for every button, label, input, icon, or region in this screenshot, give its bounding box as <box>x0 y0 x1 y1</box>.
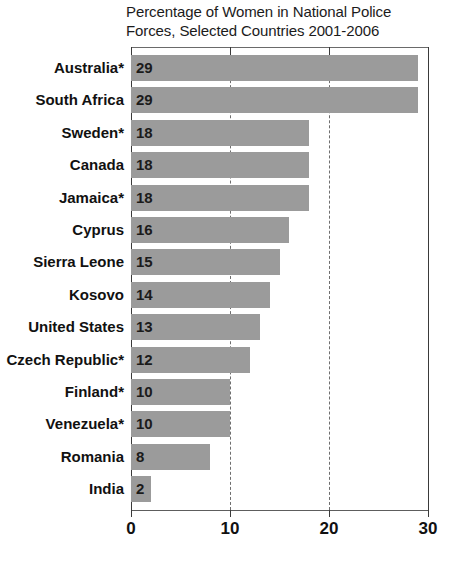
bar-value-label: 14 <box>136 282 153 308</box>
bar-row: 10 <box>131 411 428 437</box>
x-tick-label-30: 30 <box>408 519 448 539</box>
bar <box>131 217 289 243</box>
bar-row: 15 <box>131 249 428 275</box>
category-label: Romania <box>0 444 124 470</box>
category-label: Cyprus <box>0 217 124 243</box>
bar-value-label: 16 <box>136 217 153 243</box>
bar-value-label: 15 <box>136 249 153 275</box>
bar-value-label: 8 <box>136 444 144 470</box>
bar-row: 12 <box>131 347 428 373</box>
bar-value-label: 18 <box>136 152 153 178</box>
bar-row: 13 <box>131 314 428 340</box>
gridline-30 <box>428 55 430 510</box>
bar <box>131 87 418 113</box>
chart-title: Percentage of Women in National Police F… <box>126 2 456 40</box>
x-tick-mark-30 <box>428 510 429 517</box>
bar <box>131 249 280 275</box>
chart-title-line-1: Percentage of Women in National Police <box>126 2 456 21</box>
category-label: Australia* <box>0 55 124 81</box>
category-label: Kosovo <box>0 282 124 308</box>
bar-row: 18 <box>131 185 428 211</box>
category-label: Sweden* <box>0 120 124 146</box>
bar-value-label: 12 <box>136 347 153 373</box>
x-tick-mark-20 <box>329 510 330 517</box>
category-label: Venezuela* <box>0 411 124 437</box>
bar-row: 18 <box>131 120 428 146</box>
bar-row: 8 <box>131 444 428 470</box>
category-label: Finland* <box>0 379 124 405</box>
category-label: United States <box>0 314 124 340</box>
bar <box>131 185 309 211</box>
bar-value-label: 10 <box>136 411 153 437</box>
bar-row: 2 <box>131 476 428 502</box>
top-tick-0 <box>131 47 132 55</box>
top-tick-30 <box>428 47 429 55</box>
category-label: India <box>0 476 124 502</box>
top-tick-20 <box>329 47 330 55</box>
bar <box>131 55 418 81</box>
x-axis-line <box>131 510 428 511</box>
bar-value-label: 29 <box>136 87 153 113</box>
x-tick-mark-10 <box>230 510 231 517</box>
bar <box>131 152 309 178</box>
bar-row: 14 <box>131 282 428 308</box>
plot-area: 29291818181615141312101082 <box>131 55 428 510</box>
bar-row: 10 <box>131 379 428 405</box>
x-tick-label-10: 10 <box>210 519 250 539</box>
bar-row: 18 <box>131 152 428 178</box>
x-tick-label-0: 0 <box>111 519 151 539</box>
category-label: Jamaica* <box>0 185 124 211</box>
category-label: South Africa <box>0 87 124 113</box>
bar-value-label: 2 <box>136 476 144 502</box>
category-label: Czech Republic* <box>0 347 124 373</box>
bar-value-label: 29 <box>136 55 153 81</box>
category-label: Sierra Leone <box>0 249 124 275</box>
bar-chart: Percentage of Women in National Police F… <box>0 0 457 570</box>
bar-value-label: 18 <box>136 120 153 146</box>
bar-row: 29 <box>131 55 428 81</box>
bar-row: 29 <box>131 87 428 113</box>
plot-top-rule <box>131 47 428 48</box>
bar-value-label: 10 <box>136 379 153 405</box>
bar-value-label: 18 <box>136 185 153 211</box>
top-tick-10 <box>230 47 231 55</box>
x-tick-mark-0 <box>131 510 132 517</box>
chart-title-line-2: Forces, Selected Countries 2001-2006 <box>126 21 456 40</box>
bar <box>131 120 309 146</box>
bar-row: 16 <box>131 217 428 243</box>
x-tick-label-20: 20 <box>309 519 349 539</box>
bar-value-label: 13 <box>136 314 153 340</box>
category-label: Canada <box>0 152 124 178</box>
